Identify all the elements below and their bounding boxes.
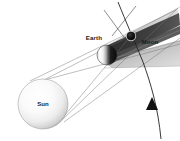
earth-sphere [97, 45, 117, 65]
lunar-eclipse-diagram: Sun Earth Moon [0, 0, 180, 141]
sun-label: Sun [37, 101, 49, 107]
eclipse-diagram-canvas: Sun Earth Moon [0, 0, 180, 141]
earth-label: Earth [86, 34, 102, 41]
moon-sphere [127, 32, 135, 40]
orbit-direction-arrow-icon [146, 97, 158, 110]
moon-label: Moon [142, 38, 159, 45]
sun-body-group: Sun [18, 79, 68, 129]
earth-body-group: Earth [86, 34, 117, 65]
sun-ray-inner-lower [60, 31, 135, 121]
sun-ray-top-to-earth-top [30, 10, 176, 81]
